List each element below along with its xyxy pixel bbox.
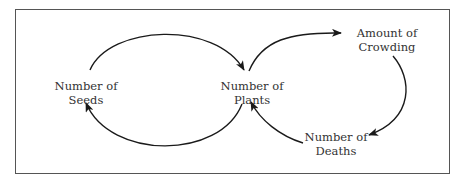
node-seeds: Number of Seeds <box>55 79 118 107</box>
node-crowding-line2: Crowding <box>357 40 417 54</box>
node-deaths: Number of Deaths <box>305 130 368 158</box>
node-deaths-line1: Number of <box>305 130 368 144</box>
edge-deaths-to-plants <box>251 102 303 143</box>
edge-plants-to-crowding <box>249 33 341 71</box>
node-crowding: Amount of Crowding <box>357 26 417 54</box>
edge-plants-to-seeds <box>86 103 242 146</box>
node-plants-line1: Number of <box>221 79 284 93</box>
node-crowding-line1: Amount of <box>357 26 417 40</box>
edge-seeds-to-plants <box>90 34 244 70</box>
node-seeds-line2: Seeds <box>55 93 118 107</box>
node-plants: Number of Plants <box>221 79 284 107</box>
node-deaths-line2: Deaths <box>305 144 368 158</box>
node-plants-line2: Plants <box>221 93 284 107</box>
node-seeds-line1: Number of <box>55 79 118 93</box>
edge-crowding-to-deaths <box>369 56 406 135</box>
